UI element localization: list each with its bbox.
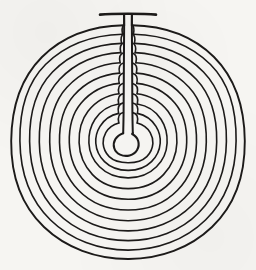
ring-6-hook-left xyxy=(119,63,123,73)
outer-wall-arc xyxy=(11,25,245,259)
ring-group-9 xyxy=(89,94,167,178)
ring-group-outer xyxy=(11,14,245,259)
ring-6-hook-right xyxy=(133,63,137,73)
ring-group-4 xyxy=(39,43,216,231)
ring-8-hook-left xyxy=(118,83,123,93)
axis-corridor xyxy=(123,16,133,134)
ring-7-arc xyxy=(69,83,186,199)
goal-ring xyxy=(114,133,139,156)
ring-10-arc xyxy=(96,113,161,170)
goal-ring-group xyxy=(114,133,139,156)
entrance-lintel xyxy=(100,14,156,15)
ring-8-hook-right xyxy=(133,83,138,93)
ring-9-arc xyxy=(89,104,167,178)
ring-7-hook-left xyxy=(119,73,124,83)
ring-8-arc xyxy=(79,94,177,189)
ring-7-hook-right xyxy=(133,73,138,83)
ring-group-7 xyxy=(69,73,186,199)
labyrinth-figure xyxy=(0,0,256,270)
ring-5-arc xyxy=(50,63,207,221)
ring-4-arc xyxy=(39,53,216,231)
ring-6-arc xyxy=(59,73,196,210)
ring-group-10 xyxy=(96,103,161,171)
ring-group-5 xyxy=(50,53,207,221)
labyrinth-drawing xyxy=(0,0,256,270)
ring-2-arc xyxy=(20,34,236,250)
ring-group-2 xyxy=(20,24,236,250)
ring-group-8 xyxy=(79,83,177,188)
axis-rail-right xyxy=(132,16,133,134)
axis-rail-left xyxy=(123,16,124,134)
